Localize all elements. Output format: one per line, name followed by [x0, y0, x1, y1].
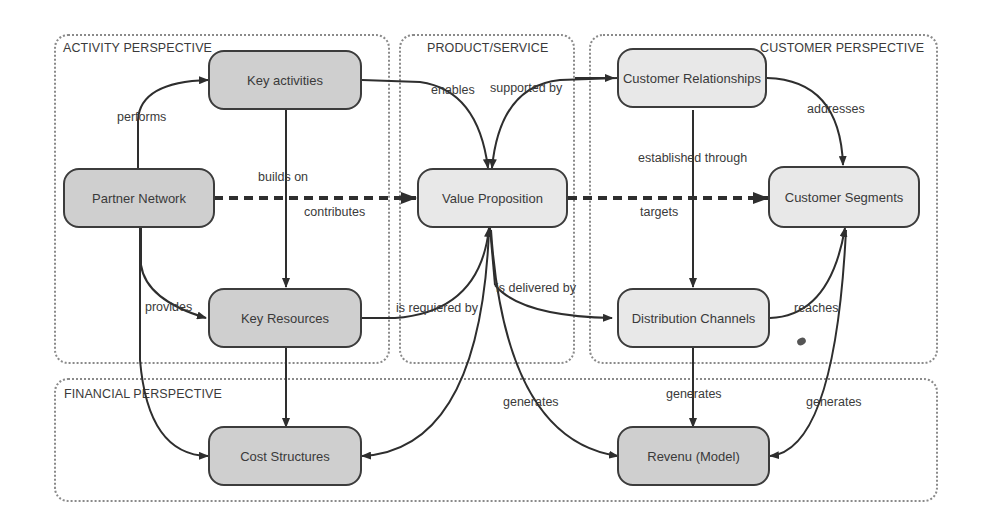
label-is-requiered-by: is requiered by	[396, 301, 478, 315]
edge-performs	[138, 80, 208, 170]
label-generates-left: generates	[503, 395, 559, 409]
node-cost-structures[interactable]: Cost Structures	[208, 426, 362, 486]
node-partner-network[interactable]: Partner Network	[63, 168, 215, 228]
label-provides: provides	[145, 300, 192, 314]
edge-generates-left	[491, 230, 618, 456]
label-enables: enables	[431, 83, 475, 97]
node-distribution-channels[interactable]: Distribution Channels	[617, 288, 770, 348]
label-builds-on: builds on	[258, 170, 308, 184]
node-key-resources[interactable]: Key Resources	[208, 288, 362, 348]
edge-generates-right	[770, 230, 846, 456]
edge-addresses	[767, 78, 843, 165]
label-contributes: contributes	[304, 205, 365, 219]
label-generates-center: generates	[666, 387, 722, 401]
label-targets: targets	[640, 205, 678, 219]
label-performs: performs	[117, 110, 166, 124]
label-reaches: reaches	[794, 301, 838, 315]
label-generates-right: generates	[806, 395, 862, 409]
label-supported-by: supported by	[490, 81, 562, 95]
edge-vp-cost	[362, 230, 489, 456]
edge-partner-cost	[140, 228, 208, 456]
node-customer-relationships[interactable]: Customer Relationships	[617, 48, 767, 108]
node-value-proposition[interactable]: Value Proposition	[417, 168, 568, 228]
label-addresses: addresses	[807, 102, 865, 116]
edges-layer	[0, 0, 986, 526]
label-is-delivered-by: is delivered by	[496, 281, 576, 295]
node-key-activities[interactable]: Key activities	[208, 50, 362, 110]
node-customer-segments[interactable]: Customer Segments	[768, 166, 920, 228]
label-established-through: established through	[638, 151, 747, 165]
node-revenue-model[interactable]: Revenu (Model)	[617, 426, 770, 486]
